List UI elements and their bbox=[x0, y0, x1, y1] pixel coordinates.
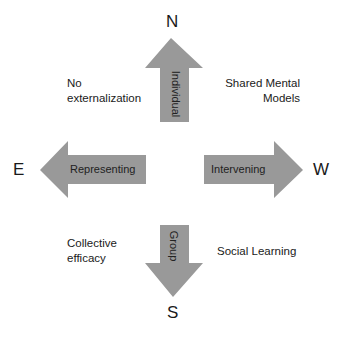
quadrant-bottom-right: Social Learning bbox=[217, 244, 296, 259]
compass-north: N bbox=[166, 12, 178, 32]
arrow-label-representing: Representing bbox=[70, 163, 135, 175]
quadrant-top-right-line2: Models bbox=[225, 91, 300, 106]
quadrant-bottom-left-line1: Collective bbox=[67, 236, 117, 251]
quadrant-top-left-line1: No bbox=[67, 76, 141, 91]
arrow-label-intervening: Intervening bbox=[211, 163, 265, 175]
quadrant-top-right: Shared Mental Models bbox=[225, 76, 300, 106]
quadrant-top-left: No externalization bbox=[67, 76, 141, 106]
quadrant-bottom-right-line1: Social Learning bbox=[217, 244, 296, 259]
quadrant-bottom-left: Collective efficacy bbox=[67, 236, 117, 266]
compass-south: S bbox=[167, 303, 178, 323]
quadrant-bottom-left-line2: efficacy bbox=[67, 251, 117, 266]
quadrant-top-right-line1: Shared Mental bbox=[225, 76, 300, 91]
quadrant-top-left-line2: externalization bbox=[67, 91, 141, 106]
compass-west: W bbox=[313, 160, 329, 180]
compass-east: E bbox=[13, 160, 24, 180]
arrow-label-group: Group bbox=[168, 222, 180, 270]
arrows-layer bbox=[0, 0, 343, 341]
arrow-label-individual: Individual bbox=[170, 64, 182, 124]
